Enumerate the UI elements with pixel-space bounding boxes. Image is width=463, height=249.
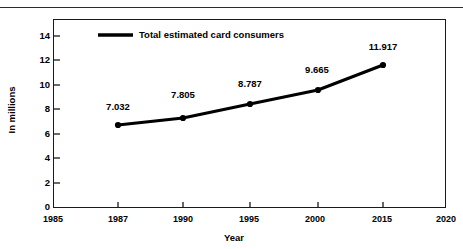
data-point-2000	[315, 87, 321, 93]
series-line-total-estimated-card-consumers	[118, 65, 383, 125]
x-axis-ticks	[118, 202, 383, 208]
data-point-1990	[180, 115, 186, 121]
data-point-2015	[380, 62, 386, 68]
data-point-1987	[115, 122, 121, 128]
series-markers	[115, 62, 386, 128]
figure-container: 14 12 10 8 6 4 2 0 In millions 1985 1987…	[0, 0, 463, 249]
y-axis-ticks	[53, 36, 60, 183]
data-point-1995	[247, 101, 253, 107]
chart-svg	[0, 0, 463, 249]
